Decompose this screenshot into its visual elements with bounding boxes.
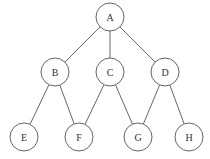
edge-a-d — [120, 27, 155, 62]
node-f: F — [65, 123, 93, 151]
edge-d-h — [170, 85, 184, 124]
node-label: A — [106, 12, 114, 23]
edge-c-g — [116, 85, 133, 124]
nodes-layer: ABCDEFGH — [10, 3, 203, 151]
edge-a-b — [65, 27, 100, 62]
node-h: H — [175, 123, 203, 151]
node-label: C — [107, 67, 114, 78]
node-label: G — [134, 132, 141, 143]
node-b: B — [41, 58, 69, 86]
node-g: G — [124, 123, 152, 151]
node-e: E — [10, 123, 38, 151]
node-label: E — [21, 132, 27, 143]
node-d: D — [151, 58, 179, 86]
edge-d-g — [143, 85, 159, 124]
node-label: B — [52, 67, 59, 78]
edge-b-f — [60, 85, 74, 124]
graph-diagram: ABCDEFGH — [0, 0, 210, 159]
node-label: D — [161, 67, 168, 78]
node-a: A — [96, 3, 124, 31]
edge-b-e — [30, 85, 49, 125]
node-label: H — [185, 132, 192, 143]
node-c: C — [96, 58, 124, 86]
edge-c-f — [85, 85, 104, 125]
node-label: F — [76, 132, 82, 143]
